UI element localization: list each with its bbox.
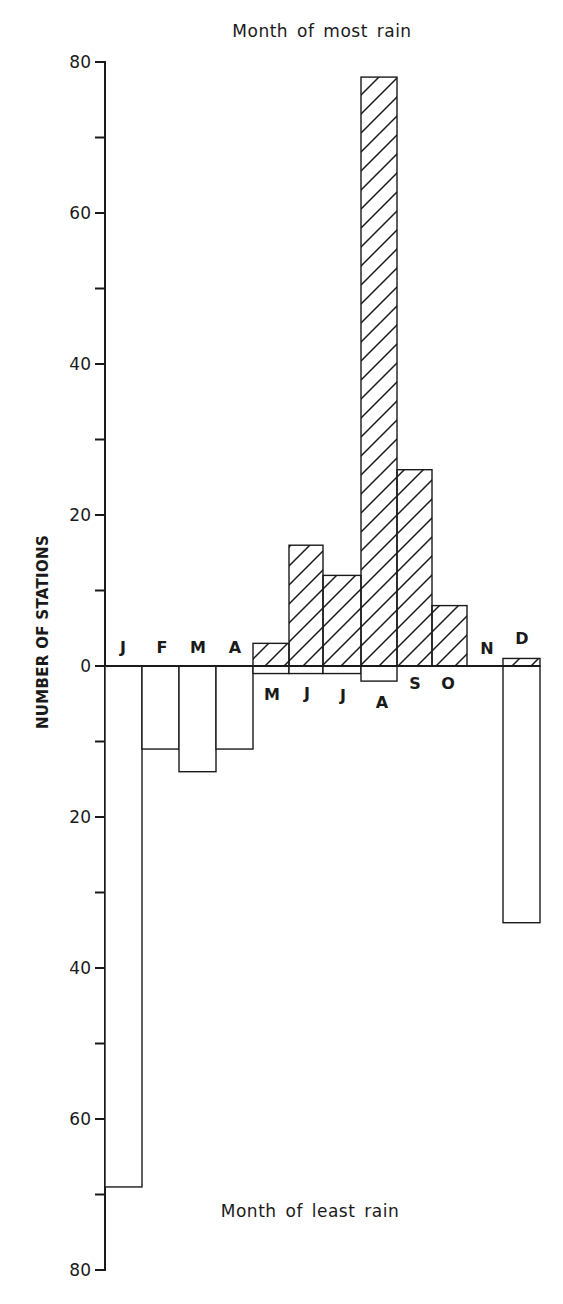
y-tick-label: 40 xyxy=(69,354,91,374)
bar-least-rain-m-4 xyxy=(253,666,289,674)
y-tick-label: 20 xyxy=(69,505,91,525)
y-tick-label: 20 xyxy=(69,807,91,827)
y-tick-label: 0 xyxy=(80,656,91,676)
bottom-title: Month of least rain xyxy=(221,1201,399,1221)
month-label-2: M xyxy=(190,638,206,657)
bar-most-rain-s-8 xyxy=(397,470,432,666)
bar-least-rain-j-5 xyxy=(289,666,323,674)
bar-least-rain-j-0 xyxy=(105,666,142,1187)
month-label-10: N xyxy=(480,639,493,658)
bar-least-rain-a-3 xyxy=(216,666,253,749)
month-label-11: D xyxy=(515,629,528,648)
month-label-3: A xyxy=(229,638,242,657)
bar-most-rain-j-6 xyxy=(323,575,361,666)
bar-most-rain-d-11 xyxy=(503,658,540,666)
y-tick-label: 80 xyxy=(69,52,91,72)
bar-least-rain-f-1 xyxy=(142,666,179,749)
month-label-5: J xyxy=(303,684,310,703)
top-title: Month of most rain xyxy=(232,21,411,41)
bar-most-rain-o-9 xyxy=(432,606,467,666)
bar-least-rain-a-7 xyxy=(361,666,397,681)
bidirectional-histogram: Month of most rain Month of least rain N… xyxy=(0,0,563,1304)
bar-least-rain-d-11 xyxy=(503,666,540,923)
y-tick-label: 60 xyxy=(69,203,91,223)
y-tick-label: 40 xyxy=(69,958,91,978)
month-label-9: O xyxy=(441,674,455,693)
bar-most-rain-a-7 xyxy=(361,77,397,666)
y-axis-title: NUMBER OF STATIONS xyxy=(34,535,52,729)
bar-most-rain-m-4 xyxy=(253,643,289,666)
y-tick-label: 80 xyxy=(69,1260,91,1280)
month-label-6: J xyxy=(339,686,346,705)
bar-least-rain-j-6 xyxy=(323,666,361,674)
month-label-8: S xyxy=(409,674,421,693)
month-label-7: A xyxy=(376,693,389,712)
month-label-1: F xyxy=(157,638,168,657)
month-label-4: M xyxy=(264,685,280,704)
bar-least-rain-m-2 xyxy=(179,666,216,772)
bar-most-rain-j-5 xyxy=(289,545,323,666)
month-label-0: J xyxy=(119,638,126,657)
y-tick-label: 60 xyxy=(69,1109,91,1129)
bars xyxy=(105,77,540,1187)
